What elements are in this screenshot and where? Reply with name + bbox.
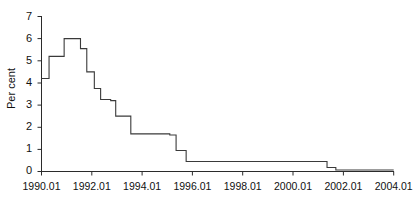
y-tick-label-5: 5 [20, 55, 32, 66]
x-tick-label-2004: 2004.01 [365, 181, 417, 192]
x-tick-label-1992: 1992.01 [63, 181, 121, 192]
y-tick-label-0: 0 [20, 165, 32, 176]
data-series-line [42, 39, 394, 170]
x-tick-marks [42, 172, 394, 176]
x-tick-label-1990: 1990.01 [13, 181, 71, 192]
y-tick-label-1: 1 [20, 143, 32, 154]
y-tick-label-6: 6 [20, 33, 32, 44]
x-tick-label-1998: 1998.01 [214, 181, 272, 192]
y-tick-label-4: 4 [20, 77, 32, 88]
x-tick-label-1994: 1994.01 [113, 181, 171, 192]
y-tick-label-3: 3 [20, 99, 32, 110]
y-tick-label-7: 7 [20, 11, 32, 22]
y-tick-marks [38, 17, 42, 172]
x-tick-label-2000: 2000.01 [264, 181, 322, 192]
y-tick-label-2: 2 [20, 121, 32, 132]
y-axis-title: Per cent [6, 59, 17, 119]
x-tick-label-2002: 2002.01 [314, 181, 372, 192]
x-tick-label-1996: 1996.01 [163, 181, 221, 192]
